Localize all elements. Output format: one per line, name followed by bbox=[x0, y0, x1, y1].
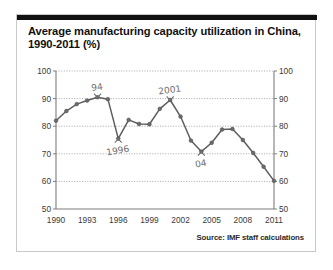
line-chart: 5060708090100 5060708090100 199019931996… bbox=[28, 63, 306, 241]
annotation-label: 1996 bbox=[106, 144, 131, 158]
y-tick-label-right: 60 bbox=[279, 176, 289, 186]
data-point-marker bbox=[158, 107, 162, 111]
y-tick-label: 90 bbox=[42, 94, 52, 104]
data-point-marker bbox=[106, 97, 110, 101]
data-point-marker bbox=[75, 102, 79, 106]
data-point-marker bbox=[231, 127, 235, 131]
y-tick-label: 100 bbox=[37, 66, 51, 76]
x-tick-label: 2002 bbox=[171, 215, 190, 225]
data-point-marker bbox=[241, 138, 245, 142]
data-point-marker bbox=[210, 141, 214, 145]
data-point-marker bbox=[220, 128, 224, 132]
top-rule-divider bbox=[17, 15, 317, 20]
y-tick-label-right: 90 bbox=[279, 94, 289, 104]
x-tick-label: 2011 bbox=[265, 215, 283, 225]
y-axis-ticks-right: 5060708090100 bbox=[274, 66, 293, 214]
x-tick-label: 1993 bbox=[78, 215, 97, 225]
annotation-label: 2001 bbox=[158, 83, 182, 96]
y-axis-ticks: 5060708090100 bbox=[37, 66, 56, 214]
x-tick-label: 1996 bbox=[109, 215, 128, 225]
y-tick-label: 50 bbox=[42, 204, 52, 214]
data-point-marker bbox=[127, 118, 131, 122]
annotation-label: 94 bbox=[91, 81, 104, 93]
data-point-marker bbox=[137, 122, 141, 126]
x-tick-label: 2005 bbox=[202, 215, 221, 225]
x-tick-label: 1990 bbox=[47, 215, 66, 225]
chart-plot-area: 5060708090100 5060708090100 199019931996… bbox=[28, 63, 306, 241]
data-point-marker bbox=[85, 99, 89, 103]
y-tick-label-right: 50 bbox=[279, 204, 289, 214]
figure-card: Average manufacturing capacity utilizati… bbox=[16, 14, 316, 252]
data-point-markers bbox=[54, 95, 276, 182]
x-tick-label: 2008 bbox=[234, 215, 253, 225]
x-tick-label: 1999 bbox=[140, 215, 159, 225]
data-point-marker bbox=[251, 151, 255, 155]
data-point-marker bbox=[148, 122, 152, 126]
x-axis-ticks: 19901993199619992002200520082011 bbox=[47, 215, 284, 225]
y-tick-label: 70 bbox=[42, 149, 52, 159]
data-point-marker bbox=[262, 165, 266, 169]
data-point-marker bbox=[272, 179, 276, 183]
annotation-pointer bbox=[198, 152, 205, 156]
y-tick-label-right: 70 bbox=[279, 149, 289, 159]
y-tick-label: 80 bbox=[42, 121, 52, 131]
data-point-marker bbox=[179, 115, 183, 119]
y-tick-label-right: 100 bbox=[279, 66, 293, 76]
source-note: Source: IMF staff calculations bbox=[197, 233, 304, 242]
annotation-label: 04 bbox=[194, 158, 207, 170]
annotation-pointer bbox=[115, 139, 122, 143]
page-title: Average manufacturing capacity utilizati… bbox=[28, 25, 308, 52]
y-tick-label-right: 80 bbox=[279, 121, 289, 131]
data-point-marker bbox=[54, 119, 58, 123]
title-block: Average manufacturing capacity utilizati… bbox=[28, 25, 308, 52]
data-point-marker bbox=[64, 109, 68, 113]
y-tick-label: 60 bbox=[42, 176, 52, 186]
data-point-marker bbox=[189, 139, 193, 143]
